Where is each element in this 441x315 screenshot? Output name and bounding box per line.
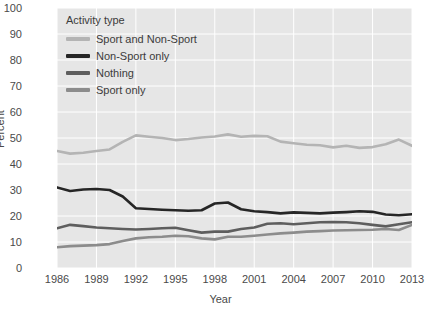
legend-item-label: Non-Sport only <box>96 50 169 62</box>
x-tick-label: 1998 <box>203 273 227 285</box>
y-axis-title: Percent <box>0 110 6 148</box>
y-tick-label: 70 <box>0 81 22 92</box>
y-tick-label: 30 <box>0 185 22 196</box>
line-chart: Percent 1009080706050403020100 198619891… <box>0 0 441 315</box>
y-tick-label: 90 <box>0 29 22 40</box>
legend-item-label: Sport and Non-Sport <box>96 33 197 45</box>
x-tick-label: 2001 <box>242 273 266 285</box>
legend: Activity type Sport and Non-SportNon-Spo… <box>66 14 197 99</box>
y-tick-label: 0 <box>0 263 22 274</box>
x-tick-label: 1989 <box>84 273 108 285</box>
legend-swatch-icon <box>66 37 90 41</box>
legend-swatch-icon <box>66 88 90 92</box>
legend-item[interactable]: Nothing <box>66 65 197 80</box>
x-tick-label: 2013 <box>400 273 424 285</box>
x-tick-label: 2004 <box>281 273 305 285</box>
legend-item[interactable]: Sport only <box>66 82 197 97</box>
y-tick-label: 40 <box>0 159 22 170</box>
legend-item[interactable]: Sport and Non-Sport <box>66 31 197 46</box>
y-tick-label: 100 <box>0 3 22 14</box>
y-tick-label: 10 <box>0 237 22 248</box>
x-tick-label: 2007 <box>321 273 345 285</box>
legend-item-label: Nothing <box>96 67 134 79</box>
legend-title: Activity type <box>66 14 197 26</box>
x-tick-label: 1992 <box>124 273 148 285</box>
series-line-non-sport-only <box>57 187 412 215</box>
y-tick-label: 20 <box>0 211 22 222</box>
y-tick-label: 80 <box>0 55 22 66</box>
x-tick-label: 1995 <box>163 273 187 285</box>
legend-items: Sport and Non-SportNon-Sport onlyNothing… <box>66 31 197 97</box>
series-line-sport-and-non-sport <box>57 134 412 153</box>
x-axis-title: Year <box>0 293 441 305</box>
legend-swatch-icon <box>66 54 90 58</box>
legend-item-label: Sport only <box>96 84 146 96</box>
x-tick-label: 2010 <box>360 273 384 285</box>
legend-swatch-icon <box>66 71 90 75</box>
legend-item[interactable]: Non-Sport only <box>66 48 197 63</box>
x-tick-label: 1986 <box>45 273 69 285</box>
